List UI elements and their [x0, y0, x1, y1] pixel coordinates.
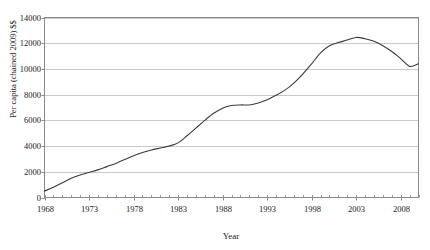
x-axis-tick-label: 1988 [215, 205, 232, 214]
x-axis-tick-label: 2008 [393, 205, 410, 214]
x-axis-tick-label: 1998 [304, 205, 321, 214]
x-axis-tick-label: 1973 [81, 205, 98, 214]
x-axis-tick-labels: 196819731978198319881993199820032008 [0, 0, 430, 250]
x-axis-tick-label: 1993 [259, 205, 276, 214]
x-axis-tick-label: 1968 [37, 205, 54, 214]
x-axis-tick-label: 2003 [348, 205, 365, 214]
x-axis-tick-label: 1978 [126, 205, 143, 214]
x-axis-tick-label: 1983 [170, 205, 187, 214]
chart-figure: Per capita (chained 2009) $$ Year 140001… [0, 0, 430, 250]
